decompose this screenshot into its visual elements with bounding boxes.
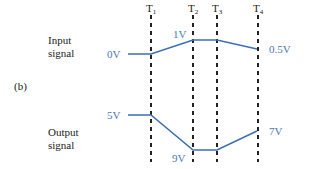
input-start-value: 0V <box>107 48 121 60</box>
output-title-line1: Output <box>48 126 79 138</box>
signal-timing-diagram: T1 T2 T3 T4 Input signal 0V 1V 0.5V (b) … <box>0 0 310 169</box>
output-title-line2: signal <box>48 139 74 151</box>
input-peak-value: 1V <box>173 28 187 40</box>
t2-label: T2 <box>188 2 199 16</box>
panel-label: (b) <box>14 80 27 93</box>
time-marker-lines <box>151 15 258 162</box>
input-end-value: 0.5V <box>269 43 291 55</box>
input-title-line1: Input <box>48 34 71 46</box>
output-end-value: 7V <box>269 125 283 137</box>
output-trough-value: 9V <box>172 152 186 164</box>
t1-label: T1 <box>146 2 157 16</box>
t3-label: T3 <box>212 2 223 16</box>
output-start-value: 5V <box>107 109 121 121</box>
t4-label: T4 <box>253 2 264 16</box>
diagram-canvas: T1 T2 T3 T4 Input signal 0V 1V 0.5V (b) … <box>0 0 310 169</box>
input-title-line2: signal <box>48 47 74 59</box>
